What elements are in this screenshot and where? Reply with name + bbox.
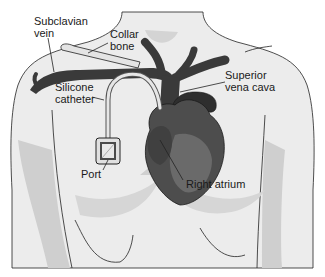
anatomy-drawing [0, 0, 325, 277]
label-subclavian-vein: Subclavian vein [34, 15, 88, 39]
label-superior-vena-cava: Superior vena cava [225, 69, 275, 93]
chest-port-illustration: Subclavian vein Collar bone Superior ven… [0, 0, 325, 277]
label-collar-bone: Collar bone [110, 28, 139, 52]
label-silicone-catheter: Silicone catheter [55, 81, 95, 105]
label-right-atrium: Right atrium [186, 178, 245, 190]
label-port: Port [81, 168, 101, 180]
